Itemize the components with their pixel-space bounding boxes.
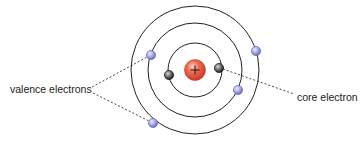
valence-leader-upper xyxy=(92,57,147,87)
nucleus xyxy=(185,60,206,81)
electron xyxy=(146,50,155,59)
core-electron xyxy=(214,63,223,72)
valence-electrons-label: valence electrons xyxy=(10,84,92,95)
valence-electrons xyxy=(146,46,260,127)
valence-electron xyxy=(148,118,157,127)
valence-electron xyxy=(251,46,260,55)
electron xyxy=(233,85,242,94)
valence-leader-lower xyxy=(93,93,149,121)
atom-diagram-canvas xyxy=(0,0,363,150)
core-electron-label: core electron xyxy=(297,92,358,103)
atom-diagram: valence electrons core electron xyxy=(0,0,363,150)
core-electron xyxy=(164,70,173,79)
